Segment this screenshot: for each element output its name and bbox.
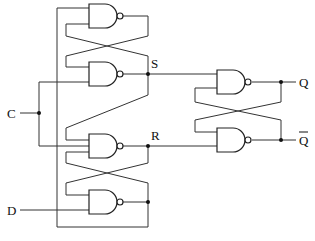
label-R: R bbox=[151, 128, 160, 143]
nand-gate-2 bbox=[89, 62, 123, 86]
label-Q: Q bbox=[299, 75, 309, 90]
nand-gate-5 bbox=[217, 70, 251, 94]
label-Q-bar: Q bbox=[299, 133, 309, 148]
label-D: D bbox=[7, 203, 16, 218]
nand-gate-4 bbox=[89, 190, 123, 214]
label-S: S bbox=[151, 56, 158, 71]
nand-gate-6 bbox=[217, 128, 251, 152]
d-flip-flop-circuit: C D S R Q Q bbox=[0, 0, 315, 241]
label-C: C bbox=[7, 106, 16, 121]
nand-gate-3 bbox=[89, 134, 123, 158]
nand-gate-1 bbox=[89, 4, 123, 28]
wire-C-bus bbox=[39, 82, 89, 146]
